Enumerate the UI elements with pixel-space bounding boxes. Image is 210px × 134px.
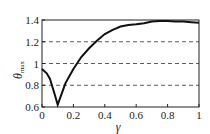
svg-text:1.2: 1.2 (25, 36, 39, 48)
grid-lines (42, 42, 199, 86)
svg-text:0.8: 0.8 (25, 79, 39, 91)
svg-text:0.2: 0.2 (67, 109, 81, 121)
svg-text:0.8: 0.8 (161, 109, 175, 121)
svg-text:0: 0 (39, 109, 45, 121)
svg-text:1: 1 (196, 109, 202, 121)
chart: 00.20.40.60.81 0.60.811.21.4 γ θmax (0, 0, 210, 134)
data-line (42, 21, 199, 105)
svg-text:1.4: 1.4 (25, 14, 39, 26)
y-axis-label: θmax (11, 61, 26, 79)
svg-text:1: 1 (34, 58, 40, 70)
svg-text:0.6: 0.6 (25, 101, 39, 113)
x-axis-label: γ (116, 120, 121, 134)
svg-text:0.4: 0.4 (98, 109, 112, 121)
svg-text:0.6: 0.6 (129, 109, 143, 121)
